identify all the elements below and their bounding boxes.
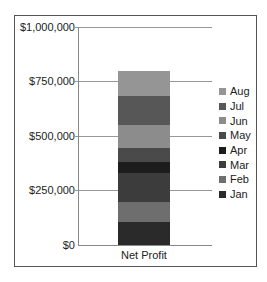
legend-swatch-mar xyxy=(219,161,226,168)
stacked-bar-net-profit xyxy=(118,71,170,245)
legend-item-apr: Apr xyxy=(219,143,251,158)
bar-segment-aug xyxy=(118,71,170,96)
gridline-1000000 xyxy=(75,27,212,28)
legend-item-jan: Jan xyxy=(219,187,251,202)
legend-item-jul: Jul xyxy=(219,99,251,114)
y-tick-0: $0 xyxy=(0,239,75,251)
legend-swatch-jan xyxy=(219,191,226,198)
legend-swatch-jun xyxy=(219,117,226,124)
legend-swatch-may xyxy=(219,132,226,139)
legend-label: Jul xyxy=(230,100,244,112)
legend-item-aug: Aug xyxy=(219,84,251,99)
y-tick-250000: $250,000 xyxy=(0,184,75,196)
legend-label: Apr xyxy=(230,144,247,156)
bar-segment-apr xyxy=(118,162,170,173)
legend-swatch-apr xyxy=(219,147,226,154)
legend-item-jun: Jun xyxy=(219,113,251,128)
legend-swatch-feb xyxy=(219,176,226,183)
bar-segment-jan xyxy=(118,222,170,245)
x-category-label: Net Profit xyxy=(104,249,184,261)
legend-item-feb: Feb xyxy=(219,172,251,187)
y-tick-500000: $500,000 xyxy=(0,130,75,142)
legend: AugJulJunMayAprMarFebJan xyxy=(219,84,251,202)
legend-item-may: May xyxy=(219,128,251,143)
legend-label: Feb xyxy=(230,173,249,185)
legend-swatch-jul xyxy=(219,103,226,110)
bar-segment-jul xyxy=(118,96,170,125)
y-axis-line xyxy=(78,27,79,246)
legend-label: Jun xyxy=(230,115,248,127)
legend-label: Aug xyxy=(230,85,250,97)
bar-segment-mar xyxy=(118,173,170,202)
bar-segment-jun xyxy=(118,125,170,148)
bar-segment-may xyxy=(118,148,170,162)
legend-item-mar: Mar xyxy=(219,157,251,172)
legend-label: Mar xyxy=(230,159,249,171)
bar-segment-feb xyxy=(118,202,170,222)
y-tick-1000000: $1,000,000 xyxy=(0,21,75,33)
legend-label: May xyxy=(230,129,251,141)
legend-label: Jan xyxy=(230,188,248,200)
x-axis-line xyxy=(78,245,212,246)
legend-swatch-aug xyxy=(219,88,226,95)
y-tick-750000: $750,000 xyxy=(0,75,75,87)
